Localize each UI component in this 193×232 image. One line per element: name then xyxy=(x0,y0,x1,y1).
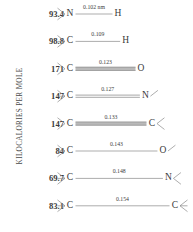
left-atom-symbol: C xyxy=(67,37,73,47)
bond-length-label: 0.143 xyxy=(110,141,123,147)
right-atom-symbol: N xyxy=(165,174,172,184)
bond-length-label: 0.148 xyxy=(113,168,126,174)
bond-row: 171CO0.123 xyxy=(0,55,193,83)
right-atom-symbol: C xyxy=(149,119,155,129)
bond-energy-length-figure: KILOCALORIES PER MOLE 93.4NH0.102 nm98.8… xyxy=(0,0,193,232)
left-atom-symbol: C xyxy=(67,201,73,211)
bond-length-label: 0.102 nm xyxy=(83,4,105,10)
bond-row: 147CC0.133 xyxy=(0,110,193,138)
left-atom-symbol: C xyxy=(67,174,73,184)
bond-energy-value: 84 xyxy=(14,146,64,156)
bond-energy-value: 69.7 xyxy=(14,173,64,183)
bond-length-label: 0.109 xyxy=(91,31,104,37)
bond-rows: 93.4NH0.102 nm98.8CH0.109171CO0.123147CN… xyxy=(0,0,193,232)
left-atom-symbol: N xyxy=(67,9,74,19)
bond-row: 98.8CH0.109 xyxy=(0,27,193,55)
right-atom-symbol: H xyxy=(122,37,129,47)
right-atom-symbol: N xyxy=(142,91,149,101)
bond-length-label: 0.154 xyxy=(116,196,129,202)
bond-row: 83.1CC0.154 xyxy=(0,192,193,220)
bond-row: 69.7CN0.148 xyxy=(0,164,193,192)
left-atom-symbol: C xyxy=(67,91,73,101)
bond-energy-value: 83.1 xyxy=(14,201,64,211)
bond-energy-value: 171 xyxy=(14,64,64,74)
right-atom-symbol: O xyxy=(138,64,145,74)
bond-energy-value: 93.4 xyxy=(14,9,64,19)
right-atom-symbol: C xyxy=(172,201,178,211)
left-atom-symbol: C xyxy=(67,146,73,156)
bond-energy-value: 147 xyxy=(14,119,64,129)
bond-length-label: 0.133 xyxy=(104,113,117,119)
bond-length-label: 0.123 xyxy=(99,59,112,65)
left-atom-symbol: C xyxy=(67,119,73,129)
right-atom-symbol: H xyxy=(115,9,122,19)
left-atom-symbol: C xyxy=(67,64,73,74)
bond-row: 84CO0.143 xyxy=(0,137,193,165)
right-atom-symbol: O xyxy=(160,146,167,156)
bond-row: 93.4NH0.102 nm xyxy=(0,0,193,28)
bond-length-label: 0.127 xyxy=(101,86,114,92)
bond-energy-value: 147 xyxy=(14,91,64,101)
bond-energy-value: 98.8 xyxy=(14,36,64,46)
bond-row: 147CN0.127 xyxy=(0,82,193,110)
